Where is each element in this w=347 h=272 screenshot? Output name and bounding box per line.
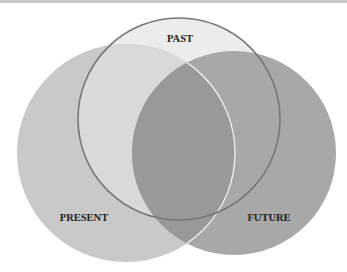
future-label: FUTURE bbox=[247, 212, 290, 223]
past-label: PAST bbox=[167, 33, 193, 44]
venn-diagram: PAST PRESENT FUTURE bbox=[0, 0, 347, 272]
present-label: PRESENT bbox=[60, 212, 108, 223]
